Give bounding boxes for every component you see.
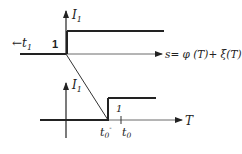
top-plot: I1 1 ←t1 s= φ (T)+ ξ(T) xyxy=(12,8,242,60)
top-left-label: ←t1 xyxy=(12,36,32,52)
tick-label-t0-minus: t0- xyxy=(100,124,112,140)
top-y-axis-label: I1 xyxy=(71,8,82,24)
bottom-plot: I1 1 T t0- t0 xyxy=(40,78,194,140)
top-x-axis-label: s= φ (T)+ ξ(T) xyxy=(165,48,242,60)
top-step-level-label: 1 xyxy=(52,38,58,50)
bottom-x-axis-label: T xyxy=(185,114,194,128)
diagram-canvas: I1 1 ←t1 s= φ (T)+ ξ(T) I1 1 T t0- t0 xyxy=(0,0,242,154)
tick-label-t0: t0 xyxy=(122,126,131,140)
bottom-y-axis-label: I1 xyxy=(71,78,82,94)
bottom-step-level-label: 1 xyxy=(116,103,122,114)
